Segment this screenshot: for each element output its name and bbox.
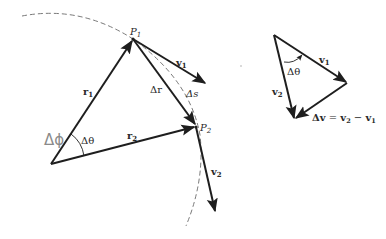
- velocity-diagram: P1 P2 r1 r2 Δr Δs v1 v2 Δθ Δϕ v1 v2 Δθ Δ…: [0, 0, 386, 239]
- triangle-delta-theta-label: Δθ: [287, 66, 300, 77]
- triangle-v2-label: v2: [271, 86, 283, 99]
- v1-label: v1: [175, 57, 187, 70]
- point-p2: [194, 125, 197, 128]
- trajectory-arc: [22, 13, 201, 226]
- handwritten-delta-phi: Δϕ: [44, 131, 64, 149]
- triangle-v1-vector: [274, 35, 346, 82]
- p1-label: P1: [129, 26, 141, 39]
- triangle-angle-arc: [284, 55, 302, 62]
- delta-v-equation: Δv = v2 − v1: [312, 112, 376, 125]
- delta-r-vector: [133, 39, 195, 124]
- v2-label: v2: [210, 166, 222, 179]
- delta-theta-label: Δθ: [81, 135, 94, 146]
- p2-label: P2: [199, 122, 212, 135]
- delta-s-label: Δs: [185, 88, 198, 99]
- r1-label: r1: [83, 86, 93, 99]
- v1-vector: [133, 39, 205, 83]
- delta-r-label: Δr: [150, 84, 162, 95]
- point-p1: [131, 37, 134, 40]
- stray-dot: [240, 65, 241, 66]
- r2-label: r2: [127, 130, 137, 143]
